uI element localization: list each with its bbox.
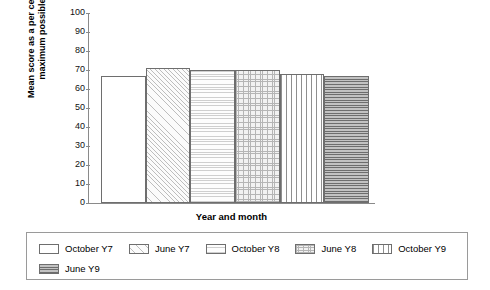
x-axis-title: Year and month bbox=[88, 211, 375, 222]
bar-october-y7 bbox=[101, 76, 146, 203]
y-axis-tick-label: 60 bbox=[55, 84, 85, 93]
y-axis-tick-label: 0 bbox=[55, 198, 85, 207]
legend-item-june-y9[interactable]: June Y9 bbox=[39, 264, 100, 274]
plot-area: 1009080706050403020100 bbox=[88, 13, 375, 204]
legend-label: June Y9 bbox=[65, 264, 100, 274]
bar-series bbox=[89, 13, 375, 203]
legend-swatch-june-y8 bbox=[295, 244, 315, 254]
y-axis-tick-label: 100 bbox=[55, 8, 85, 17]
bar-june-y9 bbox=[324, 76, 369, 203]
y-axis-tick-mark bbox=[86, 70, 90, 71]
y-axis-title-line2: maximum possible bbox=[37, 0, 47, 80]
y-axis-tick-label: 10 bbox=[55, 179, 85, 188]
y-axis-tick-mark bbox=[86, 51, 90, 52]
y-axis-tick-label: 90 bbox=[55, 27, 85, 36]
legend-row-1: October Y7June Y7October Y8June Y8Octobe… bbox=[39, 239, 459, 259]
y-axis-tick-mark bbox=[86, 32, 90, 33]
y-axis-tick-mark bbox=[86, 13, 90, 14]
y-axis-tick-label: 80 bbox=[55, 46, 85, 55]
y-axis-tick-label: 50 bbox=[55, 103, 85, 112]
y-axis-tick-mark bbox=[86, 146, 90, 147]
y-axis-tick-mark bbox=[86, 89, 90, 90]
y-axis-tick-label: 20 bbox=[55, 160, 85, 169]
bar-june-y7 bbox=[146, 68, 191, 203]
legend-label: June Y7 bbox=[155, 244, 190, 254]
y-axis-title: Mean score as a per cent of maximum poss… bbox=[26, 0, 48, 124]
y-axis-title-line1: Mean score as a per cent of bbox=[26, 0, 36, 98]
legend-swatch-june-y9 bbox=[39, 264, 59, 274]
bar-october-y8 bbox=[190, 70, 235, 203]
legend-swatch-october-y9 bbox=[372, 244, 392, 254]
y-axis-tick-mark bbox=[86, 184, 90, 185]
bar-october-y9 bbox=[280, 74, 325, 203]
y-axis-tick-label: 30 bbox=[55, 141, 85, 150]
chart-legend: October Y7June Y7October Y8June Y8Octobe… bbox=[26, 232, 468, 280]
legend-label: October Y9 bbox=[398, 244, 446, 254]
legend-label: October Y8 bbox=[232, 244, 280, 254]
legend-item-june-y8[interactable]: June Y8 bbox=[295, 244, 356, 254]
bar-chart: Mean score as a per cent of maximum poss… bbox=[0, 0, 490, 290]
legend-item-october-y8[interactable]: October Y8 bbox=[206, 244, 280, 254]
legend-label: October Y7 bbox=[65, 244, 113, 254]
legend-swatch-october-y8 bbox=[206, 244, 226, 254]
y-axis-tick-mark bbox=[86, 127, 90, 128]
y-axis-tick-mark bbox=[86, 165, 90, 166]
y-axis-tick-label: 40 bbox=[55, 122, 85, 131]
legend-item-june-y7[interactable]: June Y7 bbox=[129, 244, 190, 254]
legend-item-october-y7[interactable]: October Y7 bbox=[39, 244, 113, 254]
bar-june-y8 bbox=[235, 70, 280, 203]
y-axis-tick-mark bbox=[86, 203, 90, 204]
legend-swatch-october-y7 bbox=[39, 244, 59, 254]
legend-swatch-june-y7 bbox=[129, 244, 149, 254]
y-axis-tick-label: 70 bbox=[55, 65, 85, 74]
legend-row-2: June Y9 bbox=[39, 259, 459, 279]
legend-item-october-y9[interactable]: October Y9 bbox=[372, 244, 446, 254]
y-axis-tick-mark bbox=[86, 108, 90, 109]
legend-label: June Y8 bbox=[321, 244, 356, 254]
